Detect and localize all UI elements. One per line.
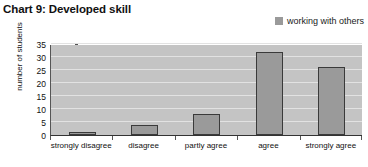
bar[interactable] bbox=[193, 114, 220, 135]
legend-swatch-icon bbox=[275, 17, 283, 25]
bar-slot bbox=[238, 45, 300, 135]
x-axis-tick-mark bbox=[50, 136, 51, 140]
y-axis-tick-label: 15 bbox=[37, 93, 46, 101]
x-axis-tick-label: strongly disagree bbox=[50, 141, 112, 151]
bar-series bbox=[51, 45, 362, 135]
x-axis-tick-marks bbox=[50, 136, 362, 140]
x-axis-tick-label: strongly agree bbox=[300, 141, 362, 151]
x-axis-tick-mark bbox=[175, 136, 176, 140]
x-axis-tick-label: disagree bbox=[112, 141, 174, 151]
x-axis-tick-mark bbox=[361, 136, 362, 140]
y-axis-tick-label: 20 bbox=[37, 80, 46, 88]
y-axis-title: number of students bbox=[15, 9, 24, 105]
y-axis-tick-label: 35 bbox=[37, 41, 46, 49]
y-axis-tick-labels: 05101520253035 bbox=[28, 45, 46, 136]
bar-slot bbox=[301, 45, 363, 135]
y-axis-tick-label: 25 bbox=[37, 67, 46, 75]
bar-slot bbox=[51, 45, 113, 135]
chart-legend: working with others bbox=[275, 16, 364, 26]
bar[interactable] bbox=[131, 125, 158, 135]
x-axis-tick-mark bbox=[112, 136, 113, 140]
x-axis-tick-label: agree bbox=[237, 141, 299, 151]
y-axis-tick-label: 0 bbox=[41, 132, 46, 140]
bar-slot bbox=[176, 45, 238, 135]
x-axis-tick-mark bbox=[300, 136, 301, 140]
plot-area bbox=[50, 45, 362, 136]
y-axis-tick-label: 30 bbox=[37, 54, 46, 62]
x-axis-tick-label: partly agree bbox=[175, 141, 237, 151]
y-axis-tick-label: 5 bbox=[41, 119, 46, 127]
legend-item-label: working with others bbox=[287, 16, 364, 26]
bar-slot bbox=[113, 45, 175, 135]
gridline bbox=[51, 43, 362, 44]
x-axis-tick-labels: strongly disagreedisagreepartly agreeagr… bbox=[50, 141, 362, 167]
bar[interactable] bbox=[318, 67, 345, 135]
y-axis-tick-label: 10 bbox=[37, 106, 46, 114]
plot-background bbox=[50, 45, 362, 136]
bar[interactable] bbox=[69, 132, 96, 135]
x-axis-tick-mark bbox=[237, 136, 238, 140]
chart-container: Chart 9: Developed skill working with ot… bbox=[0, 0, 368, 167]
bar[interactable] bbox=[256, 52, 283, 135]
